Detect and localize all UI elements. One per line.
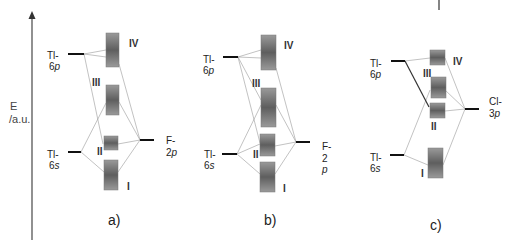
orbital-iii-box [261,88,276,127]
label-tl: Tl- [370,58,382,69]
energy-axis: E /a.u. [9,11,36,240]
orbital-ii-box [430,103,445,118]
label-f: F- [166,135,175,146]
panel-c: Tl- 6p Tl- 6s Cl- 3p IV III II I c) [370,0,502,233]
orbital-iii-label: III [252,78,261,89]
axis-label-e: E [10,100,17,112]
label-6p: 6p [370,69,382,80]
label-6s: 6s [204,160,215,171]
label-tl: Tl- [47,149,59,160]
orbital-iii-box [431,77,446,98]
orbital-i-box [428,148,443,178]
label-cl: Cl- [489,96,502,107]
orbital-iii-box [106,85,119,115]
orbital-ii-box [260,134,275,156]
panel-a: Tl- 6p Tl- 6s F- 2p IV III II I a) [47,33,178,228]
panel-caption-b: b) [264,212,276,228]
orbital-iii-label: III [92,77,101,88]
label-6p: 6p [203,65,215,76]
orbital-iv-label: IV [284,40,294,51]
orbital-ii-label: II [253,149,259,160]
label-tl: Tl- [203,54,215,65]
orbital-ii-label: II [97,146,103,157]
orbital-iv-box [106,33,119,67]
mo-diagram: E /a.u. Tl- 6p Tl- 6s F- 2p IV III II [0,0,508,250]
label-tl: Tl- [204,149,216,160]
panel-b: Tl- 6p Tl- 6s F- 2 p IV III II I b) [203,35,331,228]
orbital-iv-label: IV [129,38,139,49]
label-3p: 3p [489,108,501,119]
label-tl: Tl- [47,50,59,61]
label-p: p [321,164,328,175]
label-2p: 2p [166,147,178,158]
orbital-iv-box [261,35,276,70]
label-6s: 6s [49,160,60,171]
orbital-iii-label: III [423,68,432,79]
orbital-ii-label: II [431,121,437,132]
orbital-i-label: I [283,183,286,194]
orbital-iv-box [430,50,445,65]
label-f: F- [322,141,331,152]
orbital-ii-box [104,136,118,150]
label-tl: Tl- [370,152,382,163]
panel-caption-a: a) [108,212,120,228]
orbital-i-label: I [421,168,424,179]
label-6p: 6p [49,61,61,72]
orbital-i-box [104,160,118,190]
label-6s: 6s [370,163,381,174]
label-2: 2 [322,153,328,164]
orbital-i-box [260,162,275,192]
orbital-iv-label: IV [453,56,463,67]
panel-caption-c: c) [430,217,442,233]
orbital-i-label: I [127,181,130,192]
axis-label-units: /a.u. [9,113,30,125]
